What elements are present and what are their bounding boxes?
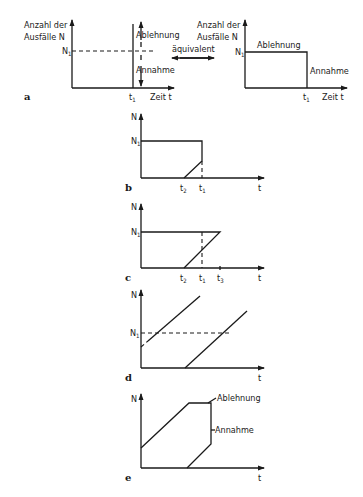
reject-label: Ablehnung: [136, 30, 180, 40]
sequential-test-diagram: Anzahl der Ausfälle N N1 Ablehnung Annah…: [0, 0, 363, 497]
y-axis-label-1: Anzahl der: [197, 20, 241, 30]
decision-boundary: [141, 232, 220, 268]
panel-label-c: c: [125, 272, 131, 283]
n1-label: N1: [130, 328, 140, 339]
reject-line: [148, 296, 200, 341]
panel-e: N Ablehnung Annahme t e: [125, 393, 264, 483]
panel-d: N N1 t d: [125, 290, 264, 383]
panel-label-e: e: [125, 472, 131, 483]
t2-label: t2: [180, 273, 187, 284]
y-axis-label-2: Ausfälle N: [197, 32, 238, 42]
y-label: N: [131, 202, 137, 212]
t2-label: t2: [180, 183, 187, 194]
n1-label: N1: [235, 47, 245, 58]
decision-boundary: [141, 141, 202, 178]
y-label: N: [131, 112, 137, 122]
panel-c: N N1 t2 t1 t3 t c: [125, 202, 264, 284]
equivalence-indicator: äquivalent: [172, 44, 215, 58]
decision-boundary: [141, 403, 211, 468]
equivalent-label: äquivalent: [172, 44, 215, 54]
panel-label-a: a: [24, 91, 31, 102]
t3-label: t3: [217, 273, 224, 284]
decision-boundary: [245, 52, 307, 88]
reject-leader: [208, 398, 216, 403]
x-label: t: [258, 373, 261, 383]
n1-label: N1: [62, 46, 72, 57]
x-label: t: [258, 473, 261, 483]
x-axis-label: Zeit t: [322, 92, 344, 102]
t1-label: t1: [199, 273, 206, 284]
accept-label: Annahme: [310, 66, 349, 76]
t1-label: t1: [303, 92, 310, 103]
reject-label: Ablehnung: [217, 393, 261, 403]
x-label: t: [258, 273, 261, 283]
panel-a-right: Anzahl der Ausfälle N N1 Ablehnung Annah…: [197, 20, 349, 103]
y-label: N: [131, 290, 137, 300]
reject-line-extension: [141, 341, 148, 347]
accept-label: Annahme: [215, 425, 254, 435]
accept-label: Annahme: [136, 65, 175, 75]
t1-label: t1: [199, 183, 206, 194]
x-axis-label: Zeit t: [150, 92, 172, 102]
y-axis-label-1: Anzahl der: [24, 20, 68, 30]
panel-label-d: d: [125, 372, 132, 383]
t1-label: t1: [129, 92, 136, 103]
y-label: N: [131, 394, 137, 404]
n1-label: N1: [131, 136, 141, 147]
panel-a-left: Anzahl der Ausfälle N N1 Ablehnung Annah…: [24, 20, 180, 103]
accept-line: [185, 311, 247, 368]
n1-label: N1: [131, 227, 141, 238]
y-axis-label-2: Ausfälle N: [24, 32, 65, 42]
panel-label-b: b: [125, 182, 132, 193]
panel-b: N N1 t2 t1 t b: [125, 112, 264, 194]
reject-label: Ablehnung: [257, 40, 301, 50]
x-label: t: [258, 183, 261, 193]
